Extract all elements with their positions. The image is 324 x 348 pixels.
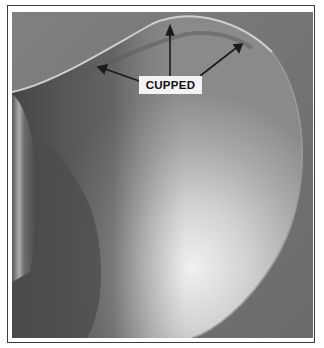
cupped-label: CUPPED — [139, 76, 202, 94]
propeller-blade-illustration — [12, 12, 313, 338]
propeller-photo — [12, 12, 313, 338]
